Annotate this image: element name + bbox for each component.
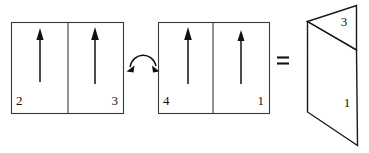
figure-canvas: 2 3 4 1	[0, 0, 369, 153]
folded-sheet: 3 1	[308, 6, 358, 146]
up-arrow-right-panel-2	[238, 30, 245, 84]
right-panel-1-label: 4	[163, 93, 170, 108]
left-panel-2-label: 3	[112, 93, 119, 108]
left-panel-1-label: 2	[16, 93, 23, 108]
diagram-svg: 2 3 4 1	[0, 0, 369, 153]
up-arrow-right-panel-1	[184, 27, 192, 84]
left-domain-pair: 2 3	[12, 23, 124, 114]
curved-double-arrow	[127, 55, 160, 72]
up-arrow-left-panel-2	[91, 27, 99, 84]
right-domain-pair: 4 1	[159, 23, 270, 114]
up-arrow-left-panel-1	[36, 28, 43, 82]
folded-sheet-lower-face	[308, 22, 358, 146]
equals-sign	[277, 58, 289, 64]
folded-sheet-upper-face	[308, 6, 357, 51]
right-panel-2-label: 1	[258, 93, 265, 108]
folded-sheet-label-lower: 1	[344, 95, 351, 110]
right-group-outline	[159, 23, 270, 114]
folded-sheet-label-upper: 3	[341, 14, 348, 29]
